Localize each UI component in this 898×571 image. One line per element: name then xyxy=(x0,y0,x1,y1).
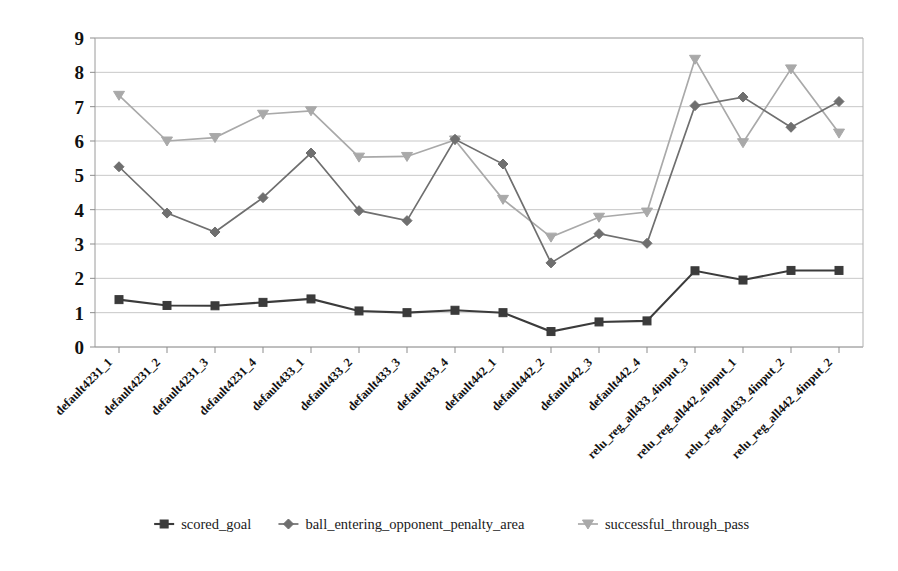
y-tick-label: 8 xyxy=(75,62,85,83)
marker-square xyxy=(307,295,315,303)
marker-square xyxy=(643,317,651,325)
series-scored_goal xyxy=(115,266,843,335)
grid-layer xyxy=(95,38,863,347)
y-tick-label: 6 xyxy=(75,131,85,152)
axis-layer xyxy=(95,38,863,347)
marker-diamond xyxy=(594,229,604,239)
marker-square xyxy=(547,328,555,336)
marker-triangle-down xyxy=(594,213,605,222)
marker-square xyxy=(163,301,171,309)
marker-triangle-down xyxy=(834,129,845,138)
legend: scored_goalball_entering_opponent_penalt… xyxy=(154,516,749,532)
y-tick-label: 2 xyxy=(75,268,85,289)
marker-square xyxy=(691,267,699,275)
marker-square xyxy=(451,306,459,314)
legend-label: scored_goal xyxy=(181,516,251,532)
marker-diamond xyxy=(786,122,796,132)
y-tick-label: 0 xyxy=(75,337,85,358)
legend-label: ball_entering_opponent_penalty_area xyxy=(305,516,525,532)
x-axis-ticks: default4231_1default4231_2default4231_3d… xyxy=(52,347,839,462)
marker-square xyxy=(160,520,168,528)
x-tick-label: relu_reg_all442_4input_2 xyxy=(729,355,835,461)
series-line xyxy=(119,270,839,331)
marker-triangle-down xyxy=(690,55,701,64)
y-tick-label: 5 xyxy=(75,165,85,186)
y-tick-label: 7 xyxy=(75,97,85,118)
marker-square xyxy=(595,318,603,326)
marker-square xyxy=(211,302,219,310)
y-tick-label: 9 xyxy=(75,28,85,49)
marker-diamond xyxy=(690,101,700,111)
marker-triangle-down xyxy=(738,139,749,148)
marker-square xyxy=(115,296,123,304)
chart-canvas: 9876543210 default4231_1default4231_2def… xyxy=(0,0,898,571)
marker-diamond xyxy=(402,216,412,226)
legend-label: successful_through_pass xyxy=(605,516,750,532)
marker-diamond xyxy=(738,92,748,102)
y-axis-ticks: 9876543210 xyxy=(75,28,96,358)
marker-square xyxy=(835,266,843,274)
marker-diamond xyxy=(498,159,508,169)
y-tick-label: 1 xyxy=(75,303,85,324)
marker-square xyxy=(787,266,795,274)
marker-square xyxy=(739,276,747,284)
marker-square xyxy=(259,298,267,306)
marker-diamond xyxy=(642,238,652,248)
series-layer xyxy=(114,55,845,335)
series-ball_entering_opponent_penalty_area xyxy=(114,92,844,268)
legend-item-successful_through_pass: successful_through_pass xyxy=(578,516,750,532)
marker-square xyxy=(403,309,411,317)
legend-item-ball_entering_opponent_penalty_area: ball_entering_opponent_penalty_area xyxy=(278,516,525,532)
marker-square xyxy=(499,309,507,317)
legend-item-scored_goal: scored_goal xyxy=(154,516,251,532)
line-chart: 9876543210 default4231_1default4231_2def… xyxy=(0,0,898,571)
series-line xyxy=(119,59,839,237)
y-tick-label: 4 xyxy=(75,200,85,221)
marker-triangle-down xyxy=(546,233,557,242)
marker-square xyxy=(355,307,363,315)
marker-diamond xyxy=(834,97,844,107)
series-successful_through_pass xyxy=(114,55,845,242)
marker-diamond xyxy=(283,519,293,529)
marker-diamond xyxy=(546,258,556,268)
y-tick-label: 3 xyxy=(75,234,85,255)
